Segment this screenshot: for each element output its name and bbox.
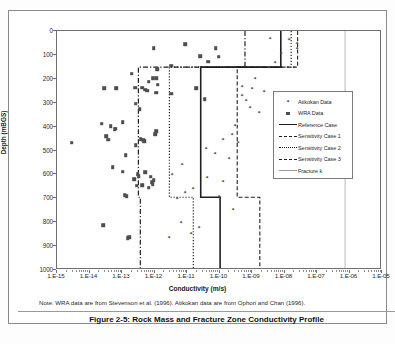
x-minor-tick xyxy=(339,270,340,272)
wra-data-point xyxy=(154,91,158,95)
y-tick-label: 800 xyxy=(43,218,53,225)
atikokan-data-point xyxy=(204,145,208,149)
wra-data-point xyxy=(124,153,128,157)
wra-data-point xyxy=(101,223,105,227)
atikokan-data-point xyxy=(268,36,272,40)
x-minor-tick xyxy=(371,270,372,272)
x-minor-tick xyxy=(299,270,300,272)
atikokan-data-point xyxy=(278,51,282,55)
dotted-line xyxy=(278,142,298,154)
atikokan-data-point xyxy=(197,225,201,229)
atikokan-data-point xyxy=(180,161,184,165)
x-minor-tick xyxy=(209,270,210,272)
wra-data-point xyxy=(151,77,155,81)
atikokan-data-point xyxy=(231,207,235,211)
wra-data-point xyxy=(107,138,111,142)
wra-data-point xyxy=(137,175,141,179)
x-tick-label: 1.E-13 xyxy=(112,272,129,279)
x-minor-tick xyxy=(274,270,275,272)
x-tick-label: 1.E-11 xyxy=(178,272,195,279)
x-minor-tick xyxy=(380,270,381,272)
wra-data-point xyxy=(146,89,150,93)
solid-line xyxy=(278,119,298,131)
y-tick-label: 600 xyxy=(43,170,53,177)
atikokan-data-point xyxy=(262,89,266,93)
wra-data-point xyxy=(170,92,174,96)
wra-data-point xyxy=(70,141,74,145)
x-minor-tick xyxy=(144,270,145,272)
atikokan-data-point xyxy=(189,231,193,235)
atikokan-data-point xyxy=(191,185,195,189)
legend-item: Sensitivity Case 3 xyxy=(278,154,349,166)
wra-data-point xyxy=(217,55,221,59)
wra-data-point xyxy=(147,80,151,84)
legend-item: Sensitivity Case 1 xyxy=(278,131,349,143)
wra-data-point xyxy=(147,186,151,190)
x-minor-tick xyxy=(79,270,80,272)
wra-data-point xyxy=(109,124,113,128)
x-minor-tick xyxy=(358,270,359,272)
legend-item: WRA Data xyxy=(278,108,349,120)
x-minor-tick xyxy=(211,270,212,272)
x-minor-tick xyxy=(271,270,272,272)
x-minor-tick xyxy=(241,270,242,272)
x-tick-label: 1.E-06 xyxy=(340,272,357,279)
x-minor-tick xyxy=(376,270,377,272)
x-minor-tick xyxy=(217,270,218,272)
wra-data-point xyxy=(121,170,125,174)
x-minor-tick xyxy=(152,270,153,272)
atikokan-data-point xyxy=(236,140,240,144)
x-minor-tick xyxy=(267,270,268,272)
x-minor-tick xyxy=(72,270,73,272)
x-minor-tick xyxy=(326,270,327,272)
atikokan-data-point xyxy=(230,132,234,136)
legend-label: Atikokan Data xyxy=(298,99,332,105)
x-minor-tick xyxy=(87,270,88,272)
x-minor-tick xyxy=(341,270,342,272)
x-minor-tick xyxy=(303,270,304,272)
wra-data-point xyxy=(155,67,159,71)
atikokan-data-point xyxy=(253,75,257,79)
legend-label: Fracture k xyxy=(298,168,322,174)
x-tick-label: 1.E-10 xyxy=(210,272,227,279)
x-minor-tick xyxy=(104,270,105,272)
atikokan-data-point xyxy=(248,105,252,109)
atikokan-data-point xyxy=(221,137,225,141)
wra-data-point xyxy=(113,128,117,132)
wra-data-point xyxy=(154,77,158,81)
line-glyph xyxy=(279,159,297,160)
x-tick-mark xyxy=(251,270,252,273)
line-glyph xyxy=(279,147,297,148)
x-tick-mark xyxy=(316,270,317,273)
x-minor-tick xyxy=(228,270,229,272)
x-minor-tick xyxy=(120,270,121,272)
legend-item: ✦Atikokan Data xyxy=(278,96,349,108)
x-tick-label: 1.E-15 xyxy=(47,272,64,279)
chart-legend: ✦Atikokan DataWRA DataReference CaseSens… xyxy=(273,91,353,179)
x-tick-mark xyxy=(89,270,90,273)
x-tick-mark xyxy=(154,270,155,273)
x-minor-tick xyxy=(181,270,182,272)
x-tick-mark xyxy=(381,270,382,273)
wra-data-point xyxy=(130,72,134,76)
wra-data-point xyxy=(126,237,130,241)
y-tick-label: 400 xyxy=(43,122,53,129)
atikokan-data-point xyxy=(240,84,244,88)
wra-data-point xyxy=(134,143,138,147)
x-minor-tick xyxy=(169,270,170,272)
x-tick-label: 1.E-07 xyxy=(307,272,324,279)
x-minor-tick xyxy=(234,270,235,272)
atikokan-data-point xyxy=(179,220,183,224)
thin-line xyxy=(278,165,298,177)
atikokan-data-point xyxy=(212,151,216,155)
diamond-marker: ✦ xyxy=(278,96,298,108)
atikokan-data-point xyxy=(295,46,299,50)
x-axis-title: Conductivity (m/s) xyxy=(9,285,386,292)
x-minor-tick xyxy=(173,270,174,272)
x-tick-mark xyxy=(219,270,220,273)
atikokan-data-point xyxy=(233,123,237,127)
x-minor-tick xyxy=(282,270,283,272)
wra-data-point xyxy=(198,54,202,58)
x-minor-tick xyxy=(293,270,294,272)
legend-item: Reference Case xyxy=(278,119,349,131)
